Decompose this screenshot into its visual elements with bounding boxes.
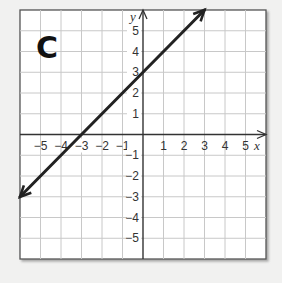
x-tick-label: −2: [95, 139, 109, 153]
y-tick-label: −1: [125, 148, 139, 162]
y-tick-label: 2: [132, 86, 139, 100]
y-tick-label: 5: [132, 24, 139, 38]
y-axis-label: y: [128, 9, 136, 24]
y-tick-label: −3: [125, 190, 139, 204]
y-tick-label: −5: [125, 231, 139, 245]
x-tick-label: 2: [181, 139, 188, 153]
x-tick-label: 5: [242, 139, 249, 153]
y-tick-label: −2: [125, 169, 139, 183]
x-tick-label: 1: [160, 139, 167, 153]
panel-label: C: [36, 30, 58, 65]
y-tick-label: −4: [125, 211, 139, 225]
x-axis-label: x: [253, 138, 260, 153]
x-tick-label: −5: [34, 139, 48, 153]
x-tick-label: 3: [201, 139, 208, 153]
x-tick-label: 4: [222, 139, 229, 153]
y-tick-label: 4: [132, 45, 139, 59]
y-tick-label: 1: [132, 107, 139, 121]
coordinate-plane-chart: −5−4−3−2−11234554321−1−2−3−4−5 x y C: [0, 0, 282, 283]
